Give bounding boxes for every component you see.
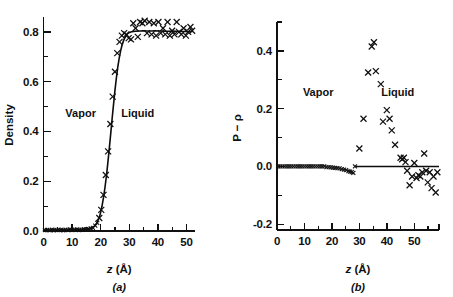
data-point-marker — [384, 107, 390, 113]
region-label-vapor: Vapor — [303, 86, 334, 98]
panel-caption: (b) — [351, 281, 365, 293]
data-point-marker — [389, 127, 395, 133]
panel-b-plot: -0.20.00.20.401020304050VaporLiquidz (Å)… — [227, 0, 453, 297]
region-label-liquid: Liquid — [381, 86, 414, 98]
panel-a: 0.00.20.40.60.801020304050VaporLiquidz (… — [0, 0, 226, 297]
data-point-marker — [107, 121, 113, 127]
panel-b-ticks — [277, 22, 428, 230]
panel-b: -0.20.00.20.401020304050VaporLiquidz (Å)… — [227, 0, 453, 297]
x-tick-label: 40 — [152, 236, 164, 248]
figure-root: 0.00.20.40.60.801020304050VaporLiquidz (… — [0, 0, 453, 297]
x-tick-label: 10 — [298, 235, 310, 247]
panel-a-ticks — [44, 32, 187, 231]
data-point-marker — [365, 70, 371, 76]
panel-a-axes — [44, 17, 196, 231]
x-tick-label: 50 — [180, 236, 192, 248]
fit-curve — [44, 31, 193, 230]
panel-a-labels: 0.00.20.40.60.801020304050VaporLiquidz (… — [3, 26, 193, 293]
region-label-liquid: Liquid — [121, 107, 154, 119]
data-point-marker — [421, 150, 427, 156]
y-tick-label: -0.2 — [253, 218, 272, 230]
data-point-marker — [373, 68, 379, 74]
x-tick-label: 10 — [66, 236, 78, 248]
x-tick-label: 0 — [40, 236, 46, 248]
y-tick-label: 0.4 — [257, 45, 273, 57]
data-point-marker — [380, 119, 386, 125]
y-tick-label: 0.6 — [23, 76, 38, 88]
data-point-marker — [434, 169, 440, 175]
data-point-marker — [117, 39, 123, 45]
x-tick-label: 40 — [381, 235, 393, 247]
data-point-marker — [360, 116, 366, 122]
x-tick-label: 20 — [326, 235, 338, 247]
region-label-vapor: Vapor — [65, 107, 96, 119]
panel-a-data-points — [43, 18, 195, 233]
x-axis-title: z (Å) — [345, 263, 371, 275]
data-point-marker — [411, 160, 417, 166]
y-tick-label: 0.4 — [23, 125, 39, 137]
panel-b-data-points — [276, 39, 440, 195]
y-axis-title: Density — [3, 104, 15, 146]
y-axis-title: P − ρ — [231, 114, 243, 142]
data-point-marker — [155, 19, 161, 25]
x-axis-title: z (Å) — [106, 263, 132, 275]
x-tick-label: 50 — [408, 235, 420, 247]
y-tick-label: 0.8 — [23, 26, 39, 38]
data-point-marker — [433, 189, 439, 195]
panel-caption: (a) — [113, 281, 127, 293]
data-point-marker — [425, 179, 431, 185]
data-point-marker — [174, 19, 180, 25]
x-tick-label: 30 — [123, 236, 135, 248]
y-tick-label: 0.0 — [257, 160, 272, 172]
y-tick-label: 0.2 — [23, 175, 38, 187]
data-point-marker — [404, 168, 410, 174]
panel-a-plot: 0.00.20.40.60.801020304050VaporLiquidz (… — [0, 0, 226, 297]
panel-b-labels: -0.20.00.20.401020304050VaporLiquidz (Å)… — [231, 45, 420, 293]
data-point-marker — [128, 36, 134, 42]
data-point-marker — [392, 142, 398, 148]
data-point-marker — [356, 146, 362, 152]
y-tick-label: 0.0 — [23, 225, 38, 237]
data-point-marker — [387, 116, 393, 122]
x-tick-label: 0 — [274, 235, 280, 247]
data-point-marker — [407, 182, 413, 188]
panel-b-axes — [277, 22, 439, 230]
data-point-marker — [135, 34, 141, 40]
x-tick-label: 30 — [353, 235, 365, 247]
data-point-marker — [165, 19, 171, 25]
panel-a-fit-curve — [44, 31, 193, 230]
x-tick-label: 20 — [94, 236, 106, 248]
y-tick-label: 0.2 — [257, 103, 272, 115]
